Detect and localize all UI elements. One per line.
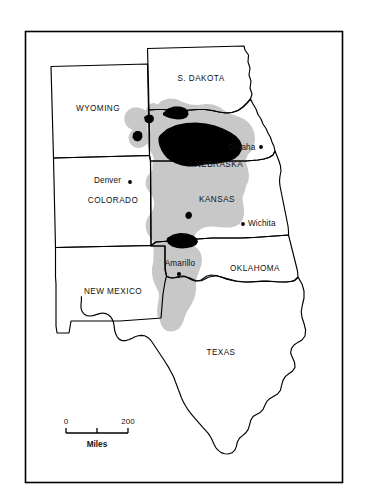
state-label-kansas: KANSAS: [199, 195, 235, 204]
city-label-amarillo: Amarillo: [165, 259, 196, 268]
city-label-wichita: Wichita: [248, 219, 276, 228]
state-label-wyoming: WYOMING: [76, 104, 120, 113]
scale-end-label: 200: [121, 417, 135, 426]
state-label-texas: TEXAS: [206, 348, 235, 357]
city-dot-wichita: [241, 222, 245, 226]
city-label-omaha: Omaha: [228, 143, 256, 152]
scale-unit-label: Miles: [87, 440, 108, 449]
city-dot-denver: [128, 180, 132, 184]
state-label-new-mexico: NEW MEXICO: [84, 287, 142, 296]
city-dot-amarillo: [177, 272, 181, 276]
map-canvas: WYOMING S. DAKOTA NEBRASKA COLORADO KANS…: [0, 0, 369, 496]
state-label-colorado: COLORADO: [88, 196, 138, 205]
city-dot-omaha: [259, 145, 263, 149]
state-label-nebraska: NEBRASKA: [195, 160, 243, 169]
scale-start-label: 0: [64, 417, 69, 426]
city-label-denver: Denver: [94, 176, 121, 185]
state-label-s-dakota: S. DAKOTA: [177, 74, 224, 83]
map-figure: WYOMING S. DAKOTA NEBRASKA COLORADO KANS…: [0, 0, 369, 496]
state-label-oklahoma: OKLAHOMA: [230, 264, 280, 273]
